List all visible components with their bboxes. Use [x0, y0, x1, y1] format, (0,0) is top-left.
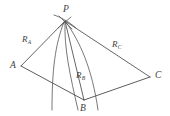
vertex-label-p: P [63, 5, 69, 15]
range-subscript-ra: A [28, 39, 31, 45]
arc-curve-a [52, 22, 64, 110]
figure-container: P A B C RA RB RC [0, 0, 170, 116]
vertex-label-c: C [155, 71, 161, 81]
range-line-pc [65, 21, 150, 77]
range-subscript-rc: C [118, 44, 122, 50]
range-label-rb: RB [76, 71, 85, 80]
diagram-canvas [0, 0, 170, 116]
range-symbol-rb: R [76, 70, 82, 80]
range-subscript-rb: B [82, 75, 85, 81]
range-label-ra: RA [22, 35, 31, 44]
range-symbol-rc: R [112, 39, 118, 49]
vertex-label-a: A [10, 61, 16, 71]
range-label-rc: RC [112, 40, 121, 49]
vertex-label-b: B [80, 104, 86, 114]
range-symbol-ra: R [22, 34, 28, 44]
